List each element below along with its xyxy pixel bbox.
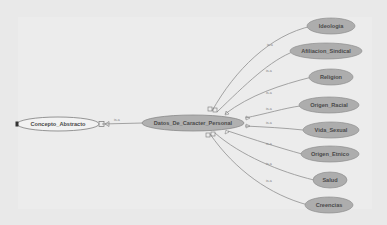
- node-origen-racial[interactable]: Origen_Racial: [299, 97, 359, 113]
- node-label: Salud: [322, 177, 338, 183]
- node-label: Afiliacion_Sindical: [301, 48, 351, 54]
- node-origen-etnico[interactable]: Origen_Etnico: [301, 146, 359, 162]
- edge-label-origen-etnico: is-a: [266, 142, 272, 146]
- edge-label: is-a: [114, 118, 120, 122]
- node-creencias[interactable]: Creencias: [305, 197, 353, 213]
- node-label: Creencias: [316, 202, 343, 208]
- node-label: Origen_Etnico: [311, 151, 350, 157]
- edge-label-salud: is-a: [266, 162, 272, 166]
- node-label: Vida_Sexual: [315, 127, 348, 133]
- node-vida-sexual[interactable]: Vida_Sexual: [303, 122, 359, 138]
- node-label: Religion: [320, 74, 343, 80]
- edge-label-vida-sexual: is-a: [266, 121, 272, 125]
- node-concepto-abstracto[interactable]: Concepto_Abstracto: [16, 117, 100, 131]
- edge-label-ideologia: is-a: [267, 43, 273, 47]
- node-afiliacion-sindical[interactable]: Afiliacion_Sindical: [290, 43, 362, 59]
- node-salud[interactable]: Salud: [313, 172, 347, 188]
- edge-label-afiliacion: is-a: [266, 69, 272, 73]
- node-label: Concepto_Abstracto: [30, 121, 86, 127]
- node-label: Datos_De_Caracter_Personal: [154, 120, 233, 126]
- edge-label-creencias: is-a: [266, 179, 272, 183]
- ontology-graph: is-a is-a is-a is-a is-a is-a is-a is-a …: [0, 0, 387, 225]
- node-religion[interactable]: Religion: [309, 69, 353, 85]
- node-ideologia[interactable]: Ideologia: [307, 18, 355, 34]
- edge-label-religion: is-a: [266, 91, 272, 95]
- edge-label-origen-racial: is-a: [266, 107, 272, 111]
- node-datos-de-caracter-personal[interactable]: Datos_De_Caracter_Personal: [142, 115, 244, 131]
- node-label: Origen_Racial: [310, 102, 348, 108]
- edge-root: is-a: [99, 118, 143, 127]
- node-label: Ideologia: [319, 23, 344, 29]
